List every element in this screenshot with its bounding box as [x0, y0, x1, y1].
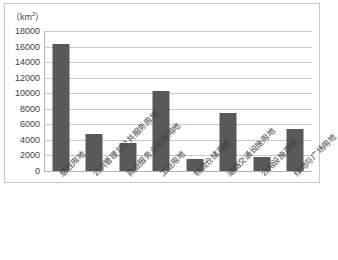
y-axis-unit-label: （km2） — [11, 12, 44, 22]
y-axis-tick-label: 0 — [35, 167, 40, 176]
plot-area: 0200040006000800010000120001400016000180… — [44, 31, 312, 171]
y-axis-tick-label: 2000 — [20, 151, 40, 160]
bar — [52, 44, 69, 171]
y-axis-tick-label: 12000 — [15, 73, 40, 82]
y-axis-tick-label: 4000 — [20, 135, 40, 144]
y-axis-tick-label: 8000 — [20, 104, 40, 113]
bar-slot — [44, 31, 78, 171]
bars-group — [44, 31, 312, 171]
y-axis-tick-label: 18000 — [15, 27, 40, 36]
bar-slot — [78, 31, 112, 171]
y-axis-tick-label: 10000 — [15, 89, 40, 98]
y-axis-tick-label: 14000 — [15, 58, 40, 67]
x-axis-category-labels: 居住用地公共管理与公共服务用地商业服务业设施用地工业用地物流仓储用地道路交通设施… — [44, 172, 312, 258]
bar-slot — [178, 31, 212, 171]
y-axis-tick-label: 6000 — [20, 120, 40, 129]
y-axis-tick-label: 16000 — [15, 42, 40, 51]
